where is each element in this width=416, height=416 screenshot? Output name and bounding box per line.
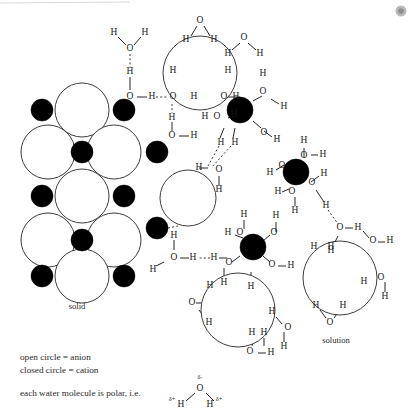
atom-O: O [237, 227, 244, 237]
lattice-cation [113, 99, 135, 121]
atom-H: H [273, 210, 280, 220]
atom-O: O [221, 91, 228, 101]
inset-atom-H-left: H [178, 399, 185, 409]
atom-H: H [311, 241, 318, 251]
atom-O: O [214, 111, 221, 121]
lattice-anion [87, 125, 141, 179]
atom-H: H [268, 347, 275, 357]
atom-H: H [191, 130, 198, 140]
atom-H: H [149, 91, 156, 101]
atom-H: H [225, 48, 232, 58]
atom-O: O [216, 164, 223, 174]
atom-O: O [169, 130, 176, 140]
atom-H: H [171, 230, 178, 240]
atom-H: H [313, 300, 320, 310]
lattice-cation [113, 185, 135, 207]
atom-H: H [170, 65, 177, 75]
atom-O: O [337, 222, 344, 232]
dissolving-anion-mid [160, 170, 216, 226]
atom-H: H [190, 252, 197, 262]
atom-H: H [281, 101, 288, 111]
atom-H: H [267, 167, 274, 177]
atom-O: O [189, 297, 196, 307]
atom-H: H [248, 281, 255, 291]
atom-H: H [202, 111, 209, 121]
atom-H: H [232, 137, 239, 147]
atom-H: H [241, 209, 248, 219]
lattice-cation [31, 185, 53, 207]
lattice-cation [146, 217, 168, 239]
atom-H: H [321, 168, 328, 178]
atom-O: O [127, 91, 134, 101]
delta-negative-label: δ- [198, 373, 203, 380]
atom-O: O [269, 259, 276, 269]
atom-H: H [382, 291, 389, 301]
atom-H: H [387, 235, 394, 245]
atom-H: H [196, 162, 203, 172]
lattice-cation [71, 141, 93, 163]
atom-O: O [309, 177, 316, 187]
atom-H: H [257, 48, 264, 58]
atom-H: H [111, 27, 118, 37]
lattice-cation [71, 229, 93, 251]
atom-H: H [218, 137, 225, 147]
atom-H: H [225, 65, 232, 75]
atom-O: O [241, 32, 248, 42]
delta-positive-left-label: δ+ [169, 395, 176, 402]
atom-O: O [226, 257, 233, 267]
atom-H: H [288, 260, 295, 270]
atom-O: O [327, 317, 334, 327]
atom-H: H [323, 200, 330, 210]
atom-O: O [301, 150, 308, 160]
atom-H: H [216, 184, 223, 194]
atom-H: H [233, 91, 240, 101]
atom-H: H [269, 306, 276, 316]
atom-O: O [289, 186, 296, 196]
label-solid: solid [69, 301, 86, 311]
lattice-cation [146, 141, 168, 163]
atom-O: O [260, 86, 267, 96]
atom-H: H [274, 134, 281, 144]
atom-O: O [271, 227, 278, 237]
atom-H: H [301, 135, 308, 145]
delta-positive-right-label: δ+ [216, 395, 223, 402]
atom-H: H [340, 300, 347, 310]
atom-H: H [261, 327, 268, 337]
atom-H: H [281, 341, 288, 351]
legend-closed-circle: closed circle = cation [20, 365, 99, 375]
scan-speck-artifact [396, 6, 407, 17]
atom-O: O [127, 43, 134, 53]
atom-H: H [211, 34, 218, 44]
atom-H: H [206, 317, 213, 327]
lattice-cation [113, 265, 135, 287]
atom-H: H [361, 276, 368, 286]
atom-H: H [225, 227, 232, 237]
atom-O: O [370, 235, 377, 245]
lattice-anion [21, 125, 75, 179]
atom-H: H [249, 327, 256, 337]
polar-water-inset: O H H δ- δ+ δ+ [169, 373, 223, 409]
solvated-cation-right [283, 159, 309, 185]
atom-O: O [261, 127, 268, 137]
inset-atom-O: O [197, 383, 204, 393]
atom-O: O [378, 272, 385, 282]
label-solution: solution [322, 335, 350, 345]
atom-O: O [170, 91, 177, 101]
atom-H: H [191, 91, 198, 101]
legend-open-circle: open circle = anion [20, 352, 91, 362]
atom-O: O [285, 322, 292, 332]
lattice-anion [55, 249, 109, 303]
atom-H: H [355, 222, 362, 232]
atom-H: H [169, 112, 176, 122]
atom-H: H [211, 252, 218, 262]
figure-canvas: H H O H O H O H O H H H H O H H H O H O … [0, 0, 416, 416]
atom-O: O [247, 346, 254, 356]
atom-H: H [328, 241, 335, 251]
solvated-cation-lower [240, 234, 266, 260]
dissolution-diagram: H H O H O H O H O H H H H O H H H O H O … [0, 0, 416, 416]
lattice-anion [55, 169, 109, 223]
lattice-cation [31, 99, 53, 121]
atom-H: H [320, 149, 327, 159]
inset-atom-H-right: H [207, 399, 214, 409]
atom-O: O [171, 252, 178, 262]
